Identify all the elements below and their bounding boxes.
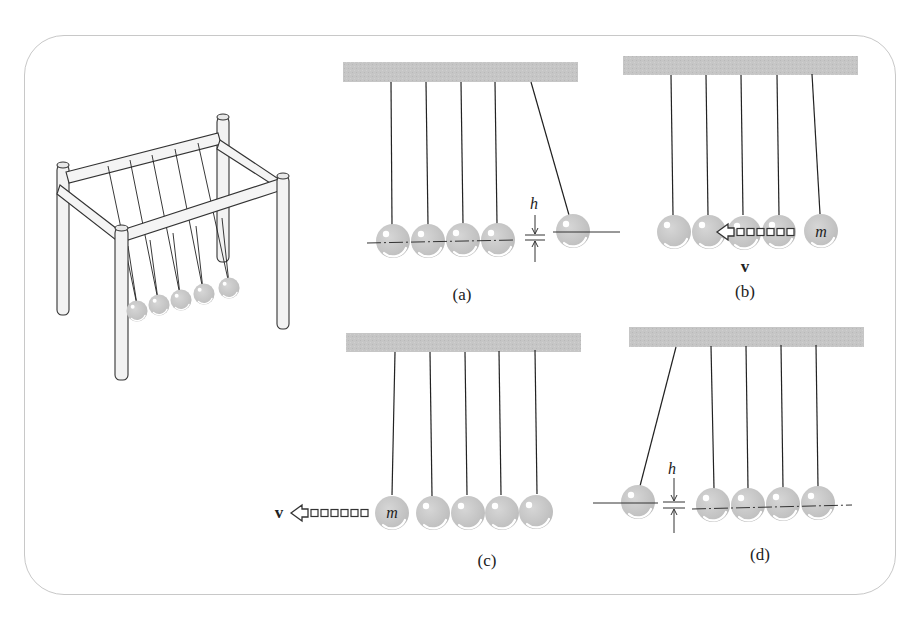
panel-a: h (a) [343, 62, 620, 304]
height-label: h [530, 195, 538, 212]
panel-label: (b) [735, 282, 755, 301]
panel-b: m v (b) [623, 56, 858, 301]
support-bar [346, 333, 581, 352]
height-label: h [668, 460, 676, 477]
panel-label: (d) [750, 545, 770, 564]
panel-label: (c) [478, 551, 497, 570]
support-bar [623, 56, 858, 75]
velocity-label: v [275, 503, 284, 522]
panel-label: (a) [453, 285, 472, 304]
cradle-illustration [57, 114, 289, 380]
velocity-arrow [291, 505, 368, 521]
newtons-cradle-diagram: h (a) m v (b) [0, 0, 908, 620]
velocity-label: v [741, 257, 750, 276]
support-bar [343, 62, 578, 82]
panel-d: h (d) [593, 327, 864, 564]
panel-c: m v (c) [275, 333, 581, 570]
mass-label: m [815, 223, 827, 240]
mass-label: m [386, 504, 398, 521]
support-bar [629, 327, 864, 347]
